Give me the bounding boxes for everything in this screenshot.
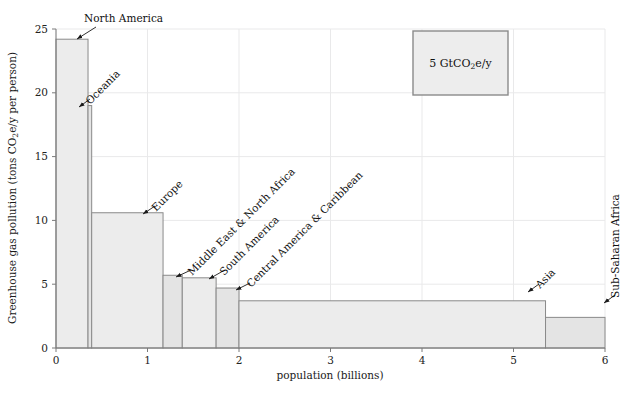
bar-north-america (56, 39, 88, 348)
bar-south-america (182, 278, 216, 348)
y-tick-label: 25 (35, 23, 48, 35)
bar-europe (92, 213, 163, 348)
y-tick-label: 5 (41, 278, 48, 290)
x-tick-label: 2 (236, 354, 243, 366)
x-tick-label: 6 (602, 354, 609, 366)
y-tick-label: 0 (41, 342, 48, 354)
y-tick-label: 10 (35, 214, 48, 226)
legend-area-key: 5 GtCO2e/y (413, 31, 508, 95)
x-tick-label: 4 (419, 354, 426, 366)
chart-canvas: 0123456 0510152025 North AmericaOceaniaE… (0, 0, 633, 393)
x-tick-label: 0 (53, 354, 60, 366)
greenhouse-gas-population-chart: 0123456 0510152025 North AmericaOceaniaE… (0, 0, 633, 393)
x-axis-title: population (billions) (277, 369, 384, 381)
y-tick-label: 20 (35, 86, 48, 98)
bar-asia (239, 301, 546, 348)
bar-sub-saharan-africa (546, 317, 605, 348)
annotation-label-north-america: North America (84, 12, 163, 24)
bar-middle-east-north-africa (163, 275, 182, 348)
annotation-label-sub-saharan-africa: Sub-Saharan Africa (609, 194, 621, 298)
y-tick-label: 15 (35, 150, 48, 162)
x-tick-label: 1 (144, 354, 151, 366)
bar-oceania (88, 106, 92, 348)
bar-central-america-caribbean (216, 288, 239, 348)
legend-key-label: 5 GtCO2e/y (429, 57, 492, 71)
x-tick-label: 3 (327, 354, 334, 366)
x-tick-label: 5 (510, 354, 517, 366)
